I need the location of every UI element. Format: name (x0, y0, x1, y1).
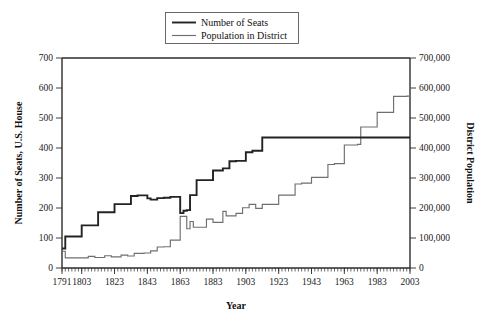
right-axis-title: District Population (465, 122, 476, 204)
right-tick-label-200,000: 200,000 (419, 203, 450, 213)
right-tick-label-500,000: 500,000 (419, 113, 450, 123)
x-axis-ticks: 1791180318231843186318831903192319431963… (53, 268, 420, 287)
x-tick-label-1823: 1823 (105, 277, 124, 287)
x-tick-label-1943: 1943 (302, 277, 321, 287)
left-tick-label-0: 0 (48, 263, 53, 273)
right-axis-ticks: 0100,000200,000300,000400,000500,000600,… (410, 53, 450, 273)
bottom-axis-title: Year (226, 300, 247, 311)
series-line-population-in-district (62, 74, 410, 258)
x-tick-label-1963: 1963 (335, 277, 354, 287)
right-tick-label-100,000: 100,000 (419, 233, 450, 243)
right-tick-label-0: 0 (419, 263, 424, 273)
legend-label-population-in-district: Population in District (201, 30, 287, 41)
left-tick-label-200: 200 (39, 203, 54, 213)
x-tick-label-1803: 1803 (72, 277, 91, 287)
right-tick-label-300,000: 300,000 (419, 173, 450, 183)
x-tick-label-1791: 1791 (53, 277, 72, 287)
x-tick-label-1863: 1863 (171, 277, 190, 287)
series-line-number-of-seats (62, 138, 410, 249)
plot-frame (62, 58, 410, 268)
right-tick-label-600,000: 600,000 (419, 83, 450, 93)
left-tick-label-400: 400 (39, 143, 54, 153)
legend-label-number-of-seats: Number of Seats (201, 17, 268, 28)
left-tick-label-700: 700 (39, 53, 54, 63)
line-chart-svg: Number of Seats Population in District 0… (0, 0, 487, 320)
left-axis-title: Number of Seats, U.S. House (13, 101, 24, 224)
x-tick-label-2003: 2003 (401, 277, 420, 287)
chart-figure: Number of Seats Population in District 0… (0, 0, 487, 320)
right-tick-label-400,000: 400,000 (419, 143, 450, 153)
left-tick-label-600: 600 (39, 83, 54, 93)
left-axis-ticks: 0100200300400500600700 (39, 53, 62, 273)
chart-legend: Number of Seats Population in District (166, 13, 299, 44)
x-tick-label-1923: 1923 (269, 277, 288, 287)
left-tick-label-500: 500 (39, 113, 54, 123)
x-tick-label-1903: 1903 (236, 277, 255, 287)
left-tick-label-300: 300 (39, 173, 54, 183)
x-tick-label-1843: 1843 (138, 277, 157, 287)
right-tick-label-700,000: 700,000 (419, 53, 450, 63)
x-tick-label-1983: 1983 (368, 277, 387, 287)
left-tick-label-100: 100 (39, 233, 54, 243)
x-tick-label-1883: 1883 (204, 277, 223, 287)
